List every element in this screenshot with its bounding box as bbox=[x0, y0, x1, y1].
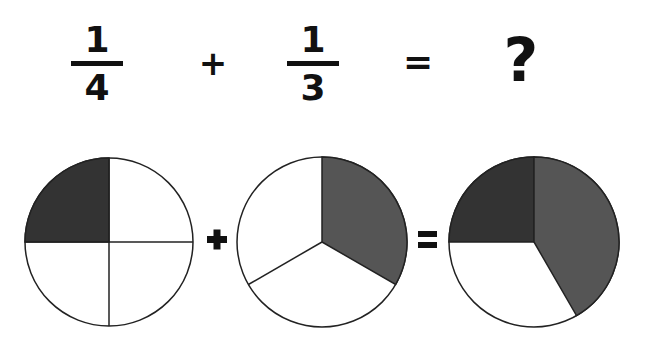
equals-icon bbox=[418, 231, 437, 248]
shaded-quarter bbox=[449, 157, 534, 242]
shaded-quarter bbox=[25, 158, 109, 242]
fraction-pie-diagrams bbox=[0, 0, 653, 355]
pie-one-third bbox=[237, 157, 407, 327]
plus-icon bbox=[207, 230, 227, 250]
pie-sum bbox=[449, 157, 619, 327]
pie-one-quarter bbox=[25, 158, 193, 326]
